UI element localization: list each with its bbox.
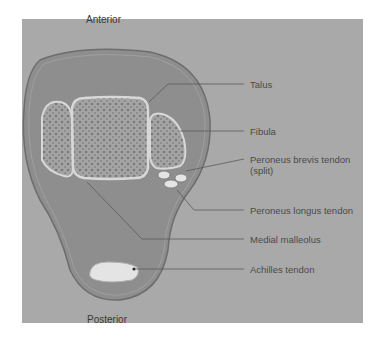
- peroneus-brevis-tendon-a: [158, 171, 170, 179]
- posterior-label: Posterior: [87, 314, 127, 325]
- label-medial-malleolus: Medial malleolus: [250, 234, 321, 245]
- label-talus: Talus: [250, 79, 272, 90]
- anterior-label: Anterior: [86, 14, 121, 25]
- label-fibula: Fibula: [250, 126, 276, 137]
- peroneus-longus-tendon: [164, 180, 178, 188]
- peroneus-brevis-tendon-b: [175, 174, 187, 182]
- achilles-tendon: [90, 262, 139, 282]
- label-peroneus-brevis: Peroneus brevis tendon: [250, 154, 350, 165]
- medial-malleolus-bone: [42, 102, 73, 177]
- label-peroneus-longus: Peroneus longus tendon: [250, 205, 353, 216]
- label-achilles: Achilles tendon: [250, 264, 314, 275]
- label-peroneus-brevis-sub: (split): [250, 165, 273, 176]
- ankle-cross-section: [0, 0, 382, 344]
- talus-bone: [72, 97, 148, 179]
